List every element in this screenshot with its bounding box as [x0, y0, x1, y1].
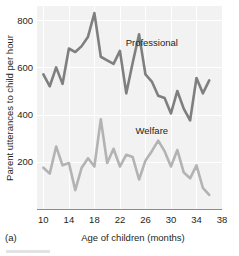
x-tick-label: 18	[89, 214, 100, 225]
y-tick-label: 800	[17, 15, 33, 26]
y-tick-label: 600	[17, 62, 33, 73]
series-label-welfare: Welfare	[136, 125, 169, 136]
x-tick-label: 34	[191, 214, 202, 225]
chart-svg: 200400600800 1014182226303438 Profession…	[0, 0, 239, 256]
x-tick-label: 14	[64, 214, 75, 225]
y-axis-title: Parent utterances to child per hour	[4, 35, 15, 181]
panel-label: (a)	[5, 232, 17, 243]
scan-artifact	[6, 250, 50, 253]
x-tick-label: 22	[115, 214, 126, 225]
y-tick-label: 400	[17, 109, 33, 120]
series-label-professional: Professional	[126, 37, 178, 48]
x-tick-label: 26	[140, 214, 151, 225]
x-tick-label: 38	[217, 214, 228, 225]
x-axis-title: Age of children (months)	[81, 232, 185, 243]
y-tick-label: 200	[17, 156, 33, 167]
x-tick-label: 10	[38, 214, 49, 225]
chart-figure: 200400600800 1014182226303438 Profession…	[0, 0, 239, 256]
x-tick-label: 30	[166, 214, 177, 225]
